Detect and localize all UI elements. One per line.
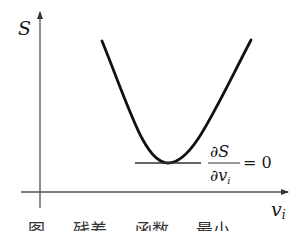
- equals-zero: = 0: [243, 153, 272, 172]
- fraction-numerator: ∂S: [210, 142, 229, 161]
- x-axis-label: vi: [271, 198, 286, 222]
- y-axis-label: S: [18, 17, 31, 39]
- derivative-annotation: ∂S ∂vi = 0: [208, 142, 272, 186]
- diagram-canvas: S vi ∂S ∂vi = 0 图 … 残差 … 函数 … 最小: [0, 0, 303, 231]
- fraction-denominator: ∂vi: [210, 166, 231, 186]
- figure-caption: 图 … 残差 … 函数 … 最小: [28, 220, 230, 231]
